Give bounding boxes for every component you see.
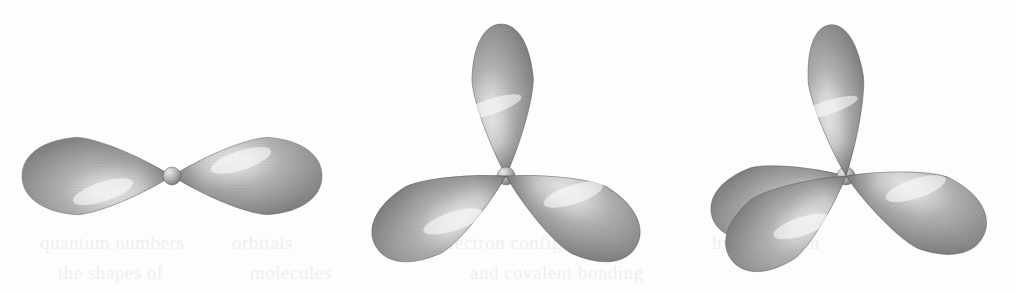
lobe-halftone-texture [831,140,999,270]
sp3-lobe-up [786,22,873,181]
sp2-lobe-lower-left [358,143,524,279]
nucleus-halftone-texture [163,167,181,185]
sp2-lobe-up [456,23,537,178]
orbital-sp [22,137,322,214]
sp3-lobe-right [831,136,1001,270]
orbital-sp2 [358,23,658,279]
sp-lobe-right [172,137,322,214]
sp-nucleus [163,167,181,185]
lobe-halftone-texture [488,143,654,279]
orbital-sp3 [702,22,1001,289]
hybrid-orbital-figure: quantum numbersorbitalselectron configur… [0,0,1016,293]
lobe-halftone-texture [358,143,524,279]
orbital-canvas [0,0,1016,293]
sp-lobe-left [22,137,172,214]
